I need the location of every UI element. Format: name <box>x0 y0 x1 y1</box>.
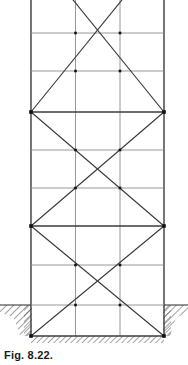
columns-group <box>31 0 164 336</box>
node-inner-left-top <box>74 32 77 35</box>
node-inner-left-ground <box>74 304 77 307</box>
diagonal-bracing-group <box>31 0 164 336</box>
panel-1-diagonal-a <box>31 0 130 112</box>
node-left-base <box>29 334 33 338</box>
node-inner-right-l2 <box>119 70 122 73</box>
joint-nodes-group <box>29 32 166 338</box>
node-left-mid-upper <box>29 110 33 114</box>
node-inner-right-ground <box>119 304 122 307</box>
figure-caption: Fig. 8.22. <box>4 349 53 362</box>
node-inner-right-l4 <box>119 149 122 152</box>
node-inner-right-l5 <box>119 187 122 190</box>
node-right-base <box>162 334 166 338</box>
foundation-bed-hatch <box>31 336 164 343</box>
node-right-mid-lower <box>162 224 166 228</box>
panel-1-diagonal-b <box>65 0 164 112</box>
horizontal-struts-group <box>31 33 164 336</box>
node-inner-left-l5 <box>74 187 77 190</box>
node-inner-left-l7 <box>74 264 77 267</box>
braced-tower-diagram <box>0 0 188 365</box>
node-left-mid-lower <box>29 224 33 228</box>
node-inner-right-l7 <box>119 264 122 267</box>
figure-container: Fig. 8.22. <box>0 0 188 365</box>
node-inner-left-l4 <box>74 149 77 152</box>
ground-earth-group <box>0 305 188 343</box>
node-right-mid-upper <box>162 110 166 114</box>
node-inner-left-l2 <box>74 70 77 73</box>
node-inner-right-top <box>119 32 122 35</box>
